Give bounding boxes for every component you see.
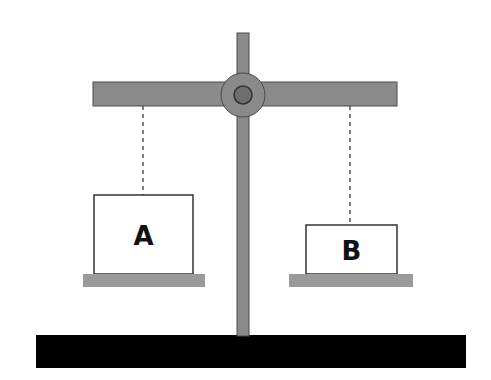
balance-scale-diagram: A B xyxy=(0,0,491,380)
base xyxy=(36,335,466,368)
left-pan xyxy=(83,274,205,287)
pivot-pin xyxy=(234,86,252,104)
object-b-label: B xyxy=(342,236,362,266)
right-pan xyxy=(289,274,413,287)
object-a-label: A xyxy=(133,221,153,251)
